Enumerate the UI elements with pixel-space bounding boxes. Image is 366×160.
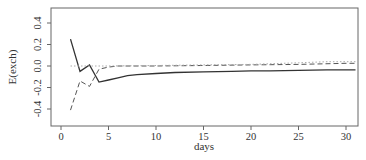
y-tick-label: 0.0 [32, 59, 43, 72]
y-tick-label: 0.2 [32, 38, 43, 51]
x-axis-label: days [194, 140, 214, 152]
x-tick-label: 30 [341, 131, 352, 142]
plot-frame [51, 8, 358, 126]
y-axis-label: E(exch) [6, 49, 19, 84]
x-tick-label: 25 [293, 131, 304, 142]
line-chart: 051015202530 -0.4-0.20.00.20.4 days E(ex… [0, 0, 366, 160]
y-tick-label: -0.2 [32, 79, 43, 96]
y-tick-label: -0.4 [32, 100, 43, 117]
x-tick-label: 10 [151, 131, 162, 142]
x-tick-label: 20 [246, 131, 257, 142]
y-tick-label: 0.4 [32, 16, 43, 30]
series-group [71, 39, 356, 110]
series-line-solid [71, 39, 356, 82]
x-tick-label: 5 [106, 131, 111, 142]
x-tick-label: 0 [58, 131, 63, 142]
y-axis: -0.4-0.20.00.20.4 [32, 16, 51, 118]
